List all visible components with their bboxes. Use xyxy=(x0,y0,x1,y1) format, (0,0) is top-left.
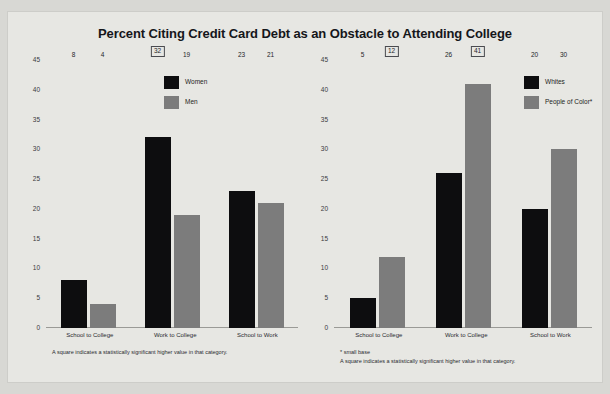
y-tick-label: 15 xyxy=(16,235,40,242)
bar[interactable]: 12 xyxy=(379,257,405,328)
legend-swatch xyxy=(164,96,179,109)
bar-value-label-significant: 32 xyxy=(150,46,164,58)
bar[interactable]: 4 xyxy=(90,304,116,328)
bar-column: 4 xyxy=(90,60,116,328)
legend-label: Whites xyxy=(545,79,565,86)
legend-item[interactable]: Whites xyxy=(524,76,592,89)
y-tick-label: 0 xyxy=(16,325,40,332)
bar-column: 41 xyxy=(465,60,491,328)
x-axis-category-label: Work to College xyxy=(445,332,488,338)
chart-canvas: Percent Citing Credit Card Debt as an Ob… xyxy=(8,12,602,382)
bar[interactable]: 32 xyxy=(145,137,171,328)
y-tick-label: 15 xyxy=(304,235,328,242)
legend-swatch xyxy=(524,76,539,89)
bar-value-label: 19 xyxy=(183,52,190,59)
x-axis-category-label: School to College xyxy=(355,332,402,338)
legend-item[interactable]: Men xyxy=(164,96,207,109)
legend-right: WhitesPeople of Color* xyxy=(524,76,592,109)
y-tick-label: 20 xyxy=(304,206,328,213)
bar-value-label: 8 xyxy=(72,52,76,59)
bar-value-label: 26 xyxy=(445,52,452,59)
y-tick-label: 25 xyxy=(16,176,40,183)
y-tick-label: 25 xyxy=(304,176,328,183)
y-tick-label: 10 xyxy=(16,265,40,272)
legend-label: Women xyxy=(185,79,207,86)
bar-value-label-significant: 41 xyxy=(470,46,484,58)
y-tick-label: 0 xyxy=(304,325,328,332)
bar-value-label: 21 xyxy=(267,52,274,59)
bar-group: 2641 xyxy=(436,60,491,328)
bar[interactable]: 41 xyxy=(465,84,491,328)
bar-value-label: 4 xyxy=(101,52,105,59)
legend-swatch xyxy=(164,76,179,89)
bar-group: 512 xyxy=(350,60,405,328)
chart-footnote: A square indicates a statistically signi… xyxy=(52,348,227,357)
bar[interactable]: 30 xyxy=(551,149,577,328)
x-axis-labels-left: School to CollegeWork to CollegeSchool t… xyxy=(46,332,298,338)
y-tick-label: 10 xyxy=(304,265,328,272)
bar[interactable]: 19 xyxy=(174,215,200,328)
bar[interactable]: 23 xyxy=(229,191,255,328)
y-tick-label: 5 xyxy=(16,295,40,302)
legend-label: Men xyxy=(185,99,198,106)
footnotes-right: * small baseA square indicates a statist… xyxy=(340,348,515,365)
y-tick-label: 35 xyxy=(304,116,328,123)
bar[interactable]: 26 xyxy=(436,173,462,328)
footnotes-left: A square indicates a statistically signi… xyxy=(52,348,227,357)
bar-value-label: 30 xyxy=(560,52,567,59)
y-tick-label: 40 xyxy=(304,87,328,94)
y-tick-label: 30 xyxy=(16,146,40,153)
chart-page: Percent Citing Credit Card Debt as an Ob… xyxy=(0,0,610,394)
bar-column: 26 xyxy=(436,60,462,328)
bar-column: 8 xyxy=(61,60,87,328)
legend-swatch xyxy=(524,96,539,109)
y-tick-label: 45 xyxy=(16,57,40,64)
y-tick-label: 45 xyxy=(304,57,328,64)
legend-item[interactable]: People of Color* xyxy=(524,96,592,109)
bar-column: 21 xyxy=(258,60,284,328)
y-tick-label: 5 xyxy=(304,295,328,302)
bar[interactable]: 8 xyxy=(61,280,87,328)
y-tick-label: 20 xyxy=(16,206,40,213)
bar[interactable]: 20 xyxy=(522,209,548,328)
bar-value-label-significant: 12 xyxy=(384,46,398,58)
bar[interactable]: 5 xyxy=(350,298,376,328)
bar-value-label: 5 xyxy=(361,52,365,59)
bar[interactable]: 21 xyxy=(258,203,284,328)
bar-value-label: 23 xyxy=(238,52,245,59)
bar-value-label: 20 xyxy=(531,52,538,59)
x-axis-labels-right: School to CollegeWork to CollegeSchool t… xyxy=(334,332,592,338)
bar-column: 5 xyxy=(350,60,376,328)
chart-panel-gender: 454035302520151050 8432192321 School to … xyxy=(14,52,304,362)
chart-panel-race: 454035302520151050 51226412030 School to… xyxy=(302,52,598,362)
chart-footnote: * small base xyxy=(340,348,515,357)
legend-left: WomenMen xyxy=(164,76,207,109)
x-axis-category-label: School to College xyxy=(66,332,113,338)
x-axis-category-label: School to Work xyxy=(237,332,278,338)
page-title: Percent Citing Credit Card Debt as an Ob… xyxy=(8,26,602,41)
chart-footnote: A square indicates a statistically signi… xyxy=(340,357,515,366)
bar-column: 12 xyxy=(379,60,405,328)
legend-label: People of Color* xyxy=(545,99,592,106)
bar-group: 84 xyxy=(61,60,116,328)
y-tick-label: 40 xyxy=(16,87,40,94)
y-tick-label: 35 xyxy=(16,116,40,123)
x-axis-category-label: School to Work xyxy=(530,332,571,338)
legend-item[interactable]: Women xyxy=(164,76,207,89)
y-tick-label: 30 xyxy=(304,146,328,153)
bar-column: 23 xyxy=(229,60,255,328)
bar-group: 2321 xyxy=(229,60,284,328)
x-axis-category-label: Work to College xyxy=(154,332,197,338)
